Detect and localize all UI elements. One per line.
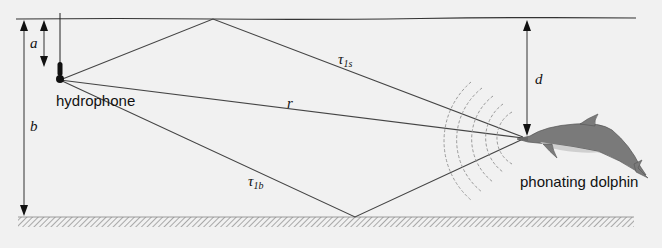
dolphin-depth-arrow (523, 20, 531, 136)
water-depth-arrow (20, 20, 28, 216)
label-d: d (535, 71, 543, 87)
hydrophone-depth-arrow (40, 20, 48, 67)
label-tau-1s: τ1s (338, 51, 352, 69)
sound-wavefronts (444, 82, 512, 200)
label-a: a (30, 35, 38, 51)
label-tau-1b: τ1b (248, 173, 263, 191)
surface-reflected-path (60, 19, 523, 137)
dolphin-icon (517, 114, 648, 178)
sea-surface-line (16, 18, 636, 20)
label-phonating-dolphin: phonating dolphin (520, 173, 638, 190)
label-hydrophone: hydrophone (56, 92, 135, 109)
label-b: b (30, 118, 38, 134)
diagram-canvas: a b d r τ1s τ1b hydrophone phonating dol… (0, 0, 662, 248)
label-r: r (287, 95, 293, 111)
hydrophone-icon (56, 13, 64, 83)
seabed (18, 217, 634, 227)
multipath-diagram: a b d r τ1s τ1b hydrophone phonating dol… (0, 0, 662, 248)
ray-paths (60, 19, 523, 217)
